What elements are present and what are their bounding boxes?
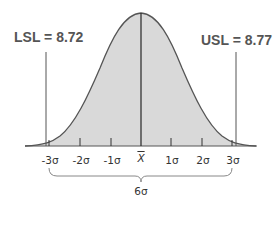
- usl-label: USL = 8.77: [201, 32, 272, 48]
- tick-label-minus-2-sigma: -2σ: [72, 154, 89, 166]
- lsl-label: LSL = 8.72: [14, 29, 83, 45]
- tick-label-mean: X: [137, 152, 144, 164]
- six-sigma-brace: [49, 168, 232, 182]
- tick-label-3-sigma: 3σ: [226, 154, 239, 166]
- tick-label-1-sigma: 1σ: [165, 154, 178, 166]
- six-sigma-label: 6σ: [134, 185, 147, 197]
- tick-label-minus-1-sigma: -1σ: [103, 154, 120, 166]
- tick-label-minus-3-sigma: -3σ: [41, 154, 58, 166]
- tick-label-2-sigma: 2σ: [196, 154, 209, 166]
